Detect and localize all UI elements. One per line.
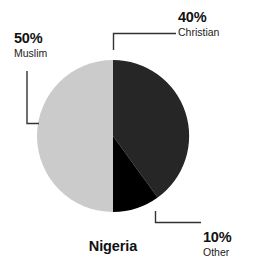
callout-value-muslim: 50% [14,31,47,46]
callout-name-christian: Christian [178,27,219,38]
callout-name-muslim: Muslim [14,48,47,59]
pie-slice-muslim [37,60,113,212]
callout-label-christian: 40% Christian [178,10,219,37]
leader-line-other [156,211,202,223]
pie-chart-figure: 40% Christian 50% Muslim 10% Other Niger… [0,0,256,270]
chart-title: Nigeria [0,238,226,254]
callout-value-christian: 40% [178,10,219,25]
callout-label-muslim: 50% Muslim [14,31,47,58]
leader-line-muslim [27,71,39,124]
leader-line-christian [114,34,177,51]
